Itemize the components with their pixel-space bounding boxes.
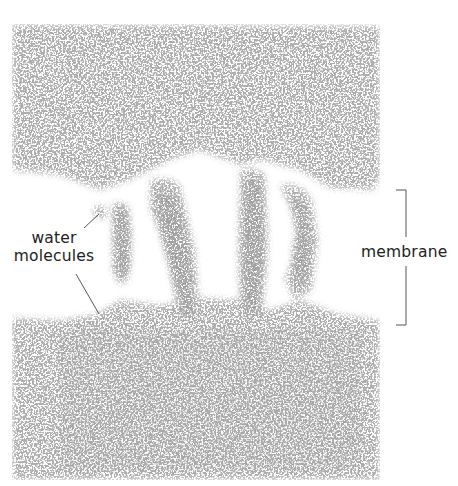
- water-label-line2: molecules: [10, 247, 98, 265]
- water-label-line1: water: [10, 229, 98, 247]
- water-upper-leader-line: [84, 214, 99, 228]
- water-molecules-label: water molecules: [10, 229, 98, 265]
- membrane-water-figure: water molecules membrane: [0, 0, 458, 486]
- water-lower-leader-line: [76, 274, 99, 314]
- membrane-bracket: [396, 190, 406, 237]
- membrane-label: membrane: [361, 243, 447, 261]
- membrane-bracket-lower: [396, 266, 406, 325]
